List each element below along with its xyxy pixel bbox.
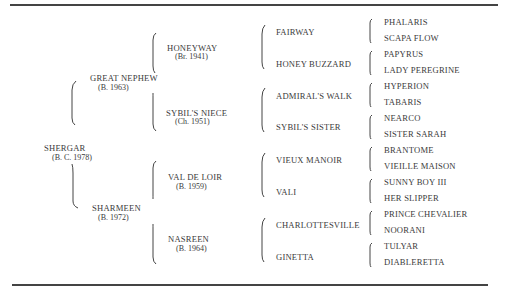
subject-detail: (B. C. 1978) <box>52 153 92 163</box>
grandparent-detail: (Br. 1941) <box>175 52 208 62</box>
ggg-name: HYPERION <box>384 81 429 91</box>
ggg-name: DIABLERETTA <box>384 257 445 267</box>
dam-name: SHARMEEN <box>92 203 141 213</box>
ggg-name: HER SLIPPER <box>384 193 439 203</box>
brace-icon <box>150 223 158 265</box>
brace-icon <box>70 80 78 126</box>
brace-icon <box>150 92 158 132</box>
sire-name: GREAT NEPHEW <box>90 73 158 83</box>
grandparent-detail: (Ch. 1951) <box>175 117 210 127</box>
brace-icon <box>367 242 373 268</box>
brace-icon <box>150 160 158 200</box>
brace-icon <box>259 87 267 133</box>
ggg-name: TULYAR <box>384 241 418 251</box>
ggg-name: SUNNY BOY III <box>384 177 447 187</box>
ggg-name: VIEILLE MAISON <box>384 161 456 171</box>
brace-icon <box>367 18 373 44</box>
dam-detail: (B. 1972) <box>98 213 129 223</box>
subject-name: SHERGAR <box>44 143 86 153</box>
ggg-name: TABARIS <box>384 97 421 107</box>
great-grandparent-name: CHARLOTTESVILLE <box>276 220 360 230</box>
ggg-name: PAPYRUS <box>384 49 423 59</box>
brace-icon <box>367 114 373 140</box>
ggg-name: LADY PEREGRINE <box>384 65 460 75</box>
grandparent-detail: (B. 1964) <box>176 244 207 254</box>
brace-icon <box>150 32 158 74</box>
great-grandparent-name: HONEY BUZZARD <box>276 59 351 69</box>
great-grandparent-name: ADMIRAL'S WALK <box>276 91 352 101</box>
sire-detail: (B. 1963) <box>98 83 129 93</box>
great-grandparent-name: VALI <box>276 187 296 197</box>
brace-icon <box>259 152 267 198</box>
brace-icon <box>367 82 373 108</box>
ggg-name: BRANTOME <box>384 145 434 155</box>
brace-icon <box>367 178 373 204</box>
great-grandparent-name: GINETTA <box>276 252 314 262</box>
brace-icon <box>70 163 80 209</box>
great-grandparent-name: SYBIL'S SISTER <box>276 122 341 132</box>
ggg-name: SCAPA FLOW <box>384 33 439 43</box>
great-grandparent-name: VIEUX MANOIR <box>276 155 342 165</box>
bottom-rule <box>12 284 488 286</box>
brace-icon <box>259 24 267 70</box>
grandparent-detail: (B. 1959) <box>176 182 207 192</box>
brace-icon <box>367 146 373 172</box>
grandparent-name: NASREEN <box>168 234 209 244</box>
ggg-name: NOORANI <box>384 225 425 235</box>
grandparent-name: VAL DE LOIR <box>168 172 222 182</box>
ggg-name: SISTER SARAH <box>384 129 446 139</box>
brace-icon <box>367 50 373 76</box>
ggg-name: PRINCE CHEVALIER <box>384 209 468 219</box>
top-rule <box>10 4 498 6</box>
great-grandparent-name: FAIRWAY <box>276 27 315 37</box>
ggg-name: NEARCO <box>384 113 421 123</box>
brace-icon <box>367 210 373 236</box>
ggg-name: PHALARIS <box>384 17 428 27</box>
brace-icon <box>259 217 267 263</box>
